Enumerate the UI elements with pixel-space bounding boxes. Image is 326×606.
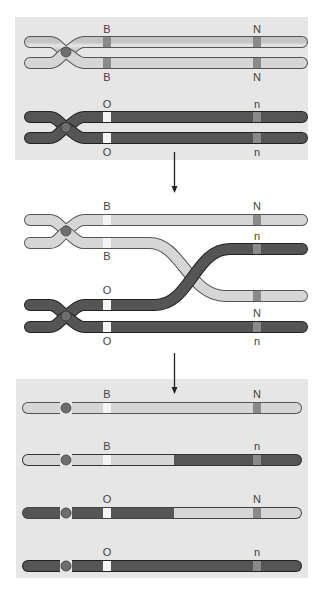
gene-band-n: [253, 322, 261, 332]
allele-label: B: [103, 200, 110, 212]
gene-band-O: [103, 561, 111, 571]
centromere: [61, 226, 71, 236]
allele-label: n: [254, 146, 260, 158]
gene-band-n: [253, 112, 261, 122]
allele-label: N: [253, 23, 261, 35]
gene-band-B: [103, 58, 111, 68]
allele-label: n: [254, 335, 260, 347]
chromatid-row: [22, 402, 302, 414]
stage-1-paired-homologs: B N B N O n O n: [15, 17, 308, 160]
gene-band-B: [103, 37, 111, 47]
chromatid-row: [22, 560, 302, 572]
centromere: [61, 311, 71, 321]
gene-band-N: [253, 291, 261, 301]
allele-label: B: [103, 440, 110, 452]
allele-label: N: [253, 307, 261, 319]
allele-label: O: [103, 98, 112, 110]
allele-label: N: [253, 493, 261, 505]
centromere: [61, 508, 71, 518]
gene-band-n: [253, 133, 261, 143]
allele-label: B: [103, 71, 110, 83]
allele-label: N: [253, 71, 261, 83]
chromatid-row: [22, 507, 302, 519]
gene-band-B: [103, 215, 111, 225]
allele-label: B: [103, 388, 110, 400]
gene-band-B: [103, 403, 111, 413]
allele-label: n: [254, 546, 260, 558]
crossing-over-diagram: B N B N O n O n: [0, 0, 326, 606]
gene-band-O: [103, 112, 111, 122]
centromere: [61, 123, 71, 133]
chromatid-row: [22, 454, 302, 466]
gene-band-N: [253, 58, 261, 68]
gene-band-O: [103, 322, 111, 332]
centromere: [61, 561, 71, 571]
allele-label: O: [103, 284, 112, 296]
allele-label: n: [254, 440, 260, 452]
allele-label: n: [254, 230, 260, 242]
centromere: [61, 47, 71, 57]
allele-label: O: [103, 546, 112, 558]
allele-label: N: [253, 388, 261, 400]
centromere: [61, 455, 71, 465]
allele-label: O: [103, 335, 112, 347]
allele-label: O: [103, 146, 112, 158]
gene-band-B: [103, 238, 111, 248]
gene-band-n: [253, 244, 261, 254]
allele-label: B: [103, 23, 110, 35]
gene-band-n: [253, 561, 261, 571]
centromere: [61, 403, 71, 413]
gene-band-N: [253, 37, 261, 47]
gene-band-N: [253, 508, 261, 518]
gene-band-n: [253, 455, 261, 465]
stage-3-recombinant-chromatids: B N B n O N: [16, 379, 308, 578]
allele-label: n: [254, 98, 260, 110]
gene-band-O: [103, 133, 111, 143]
gene-band-O: [103, 508, 111, 518]
gene-band-N: [253, 215, 261, 225]
allele-label: N: [253, 200, 261, 212]
gene-band-N: [253, 403, 261, 413]
stage-2-crossing-over: B N B n O N O n: [30, 200, 302, 347]
gene-band-O: [103, 300, 111, 310]
allele-label: O: [103, 493, 112, 505]
allele-label: B: [103, 250, 110, 262]
gene-band-B: [103, 455, 111, 465]
